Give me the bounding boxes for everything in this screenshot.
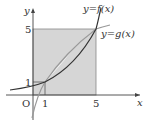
function-graph: y x O 1 5 1 5 y=f(x) y=g(x) <box>0 0 147 125</box>
origin-label: O <box>22 98 30 109</box>
x-tick-1: 1 <box>42 98 48 109</box>
x-tick-5: 5 <box>93 98 99 109</box>
shaded-square <box>33 29 96 95</box>
curve-g-label: y=g(x) <box>100 28 135 39</box>
curve-f-label: y=f(x) <box>82 3 114 14</box>
y-tick-5: 5 <box>25 24 31 35</box>
x-axis-label: x <box>137 97 143 108</box>
y-axis-label: y <box>23 5 30 16</box>
y-axis-arrow-icon <box>31 8 35 13</box>
y-tick-1: 1 <box>25 77 31 88</box>
